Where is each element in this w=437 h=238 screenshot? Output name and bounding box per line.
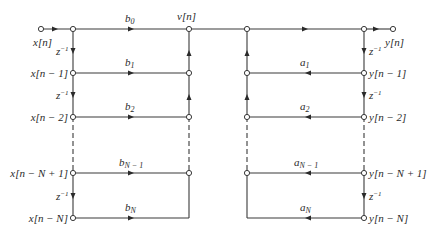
v-label: v[n] — [177, 10, 196, 22]
node-label-y-n-2: y[n − 2] — [368, 111, 406, 123]
arrow-up-icon — [187, 50, 250, 100]
coef-b2: b2 — [125, 100, 135, 114]
delay-label-left-2: z−1 — [55, 89, 69, 101]
node-label-y-n-N-1: y[n − N + 1] — [368, 167, 427, 179]
delay-label-right-N: z−1 — [368, 190, 382, 202]
arrow-left-icon — [305, 71, 311, 221]
coef-bN: bN — [125, 201, 137, 215]
node-label-y-n-1: y[n − 1] — [368, 67, 406, 79]
coef-a1: a1 — [300, 56, 310, 70]
coef-a2: a2 — [300, 100, 310, 114]
coef-b0: b0 — [125, 12, 135, 26]
node-label-x-n-2: x[n − 2] — [30, 111, 68, 123]
delay-label-left-1: z−1 — [55, 45, 69, 57]
coef-aN-1: aN − 1 — [294, 156, 318, 170]
arrow-down-icon — [71, 48, 367, 199]
arrow-right-icon — [52, 27, 379, 221]
delay-label-left-N: z−1 — [55, 190, 69, 202]
coef-aN: aN — [300, 201, 312, 215]
node-label-x-n-1: x[n − 1] — [30, 67, 68, 79]
input-label: x[n] — [32, 36, 52, 48]
coef-b1: b1 — [125, 56, 135, 70]
output-label: y[n] — [384, 36, 404, 48]
direct-form-1-diagram: x[n] v[n] y[n] x[n − 1] x[n − 2] x[n − N… — [0, 0, 437, 238]
delay-label-right-2: z−1 — [368, 89, 382, 101]
node-circles — [38, 26, 395, 220]
delay-label-right-1: z−1 — [368, 45, 382, 57]
node-label-y-n-N: y[n − N] — [368, 212, 408, 224]
node-label-x-n-N-1: x[n − N + 1] — [9, 167, 68, 179]
node-label-x-n-N: x[n − N] — [28, 212, 68, 224]
coef-bN-1: bN − 1 — [119, 156, 143, 170]
